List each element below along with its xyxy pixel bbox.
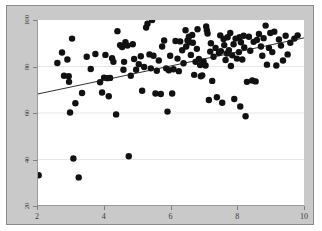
scatter-point	[231, 96, 237, 102]
scatter-point	[79, 90, 85, 96]
scatter-point	[167, 53, 173, 59]
scatter-point	[260, 35, 266, 41]
scatter-point	[221, 42, 227, 48]
y-axis-tick-label: 60	[23, 106, 31, 120]
scatter-point	[99, 89, 105, 95]
x-axis-tick-label: 2	[28, 212, 46, 221]
scatter-point	[141, 64, 147, 70]
scatter-point	[59, 49, 65, 55]
scatter-point	[199, 72, 205, 78]
y-axis-tick-label: 100	[23, 13, 31, 27]
scatter-point	[92, 51, 98, 57]
x-axis-tick-mark	[171, 206, 172, 210]
scatter-point	[110, 59, 116, 65]
scatter-point	[126, 153, 132, 159]
scatter-point	[280, 57, 286, 63]
gridlines	[38, 67, 304, 160]
scatter-point	[284, 51, 290, 57]
scatter-point	[124, 42, 130, 48]
x-axis-tick-mark	[37, 206, 38, 210]
scatter-point	[120, 67, 126, 73]
y-axis-tick-label: 40	[23, 153, 31, 167]
x-axis-tick-label: 6	[162, 212, 180, 221]
x-axis-tick-mark	[104, 206, 105, 210]
scatter-point	[159, 43, 165, 49]
scatter-point	[70, 155, 76, 161]
scatter-point	[131, 56, 137, 62]
scatter-point	[114, 28, 120, 34]
scatter-point	[150, 53, 156, 59]
scatter-point	[121, 59, 127, 65]
scatter-point	[88, 66, 94, 72]
scatter-point	[138, 53, 144, 59]
scatter-point	[218, 48, 224, 54]
plot-area	[37, 20, 304, 206]
scatter-point	[190, 40, 196, 46]
scatter-point	[228, 63, 234, 69]
scatter-point	[133, 67, 139, 73]
scatter-point	[176, 68, 182, 74]
scatter-point	[273, 62, 279, 68]
scatter-point	[177, 38, 183, 44]
scatter-point	[204, 30, 210, 36]
scatter-point	[246, 34, 252, 40]
scatter-point	[194, 46, 200, 52]
scatter-point	[174, 55, 180, 61]
scatter-point	[113, 111, 119, 117]
scatter-point	[242, 113, 248, 119]
scatter-point	[240, 33, 246, 39]
scatter-point	[237, 103, 243, 109]
scatter-points-group	[38, 20, 301, 181]
scatter-point	[282, 33, 288, 39]
scatter-point	[67, 109, 73, 115]
scatter-point	[214, 94, 220, 100]
plot-canvas	[38, 20, 304, 206]
scatter-point	[164, 108, 170, 114]
scatter-point	[130, 41, 136, 47]
x-axis-tick-label: 8	[228, 212, 246, 221]
x-axis-tick-mark	[237, 206, 238, 210]
scatter-point	[156, 57, 162, 63]
scatter-point	[276, 36, 282, 42]
scatter-point	[254, 37, 260, 43]
scatter-point	[262, 22, 268, 28]
scatter-point	[239, 56, 245, 62]
scatter-point	[72, 100, 78, 106]
x-axis-tick-label: 10	[295, 212, 313, 221]
scatter-point	[208, 40, 214, 46]
scatter-point	[158, 91, 164, 97]
scatter-point	[188, 52, 194, 58]
scatter-point	[259, 53, 265, 59]
scatter-point	[54, 60, 60, 66]
y-axis-tick-label: 20	[23, 199, 31, 213]
scatter-point	[64, 56, 70, 62]
scatter-point	[202, 62, 208, 68]
scatter-point	[182, 27, 188, 33]
y-axis-tick-label: 80	[23, 60, 31, 74]
scatter-point	[264, 61, 270, 67]
scatter-point	[102, 52, 108, 58]
scatter-point	[66, 73, 72, 79]
scatter-point	[206, 97, 212, 103]
scatter-point	[69, 35, 75, 41]
x-axis-tick-label: 4	[95, 212, 113, 221]
scatter-point	[84, 54, 90, 60]
scatter-point	[219, 100, 225, 106]
scatter-point	[271, 28, 277, 34]
scatter-point	[227, 30, 233, 36]
scatter-point	[252, 78, 258, 84]
scatter-point	[66, 79, 72, 85]
scatter-point	[169, 90, 175, 96]
x-axis-tick-mark	[304, 206, 305, 210]
scatter-plot-figure: 20406080100 246810	[0, 0, 322, 231]
scatter-point	[191, 72, 197, 78]
scatter-point	[139, 87, 145, 93]
scatter-point	[269, 49, 275, 55]
scatter-point	[194, 26, 200, 32]
scatter-point	[38, 172, 42, 178]
scatter-point	[189, 32, 195, 38]
scatter-point	[76, 174, 82, 180]
scatter-point	[230, 41, 236, 47]
scatter-point	[209, 78, 215, 84]
scatter-point	[222, 57, 228, 63]
